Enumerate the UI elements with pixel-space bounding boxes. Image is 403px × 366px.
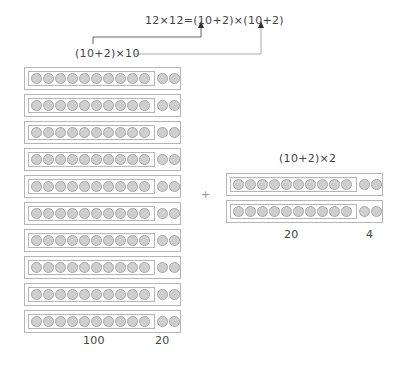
dot: [79, 73, 90, 84]
dot-row: [226, 200, 383, 223]
dot: [79, 127, 90, 138]
right-sum-ones: 4: [366, 228, 373, 241]
dot: [55, 154, 66, 165]
dot: [115, 181, 126, 192]
dot: [329, 206, 340, 217]
dot: [31, 316, 42, 327]
ten-group: [28, 206, 155, 221]
ten-group: [28, 314, 155, 329]
dot: [43, 73, 54, 84]
ones-group: [157, 149, 180, 170]
dot: [127, 100, 138, 111]
dot: [91, 316, 102, 327]
ten-group: [230, 204, 357, 219]
dot: [127, 181, 138, 192]
dot: [233, 179, 244, 190]
dot: [79, 181, 90, 192]
dot: [157, 316, 168, 327]
ones-group: [157, 122, 180, 143]
dot: [103, 181, 114, 192]
dot: [79, 262, 90, 273]
dot: [67, 262, 78, 273]
dot-row: [226, 173, 383, 196]
dot: [139, 73, 150, 84]
dot-row: [24, 283, 181, 306]
dot: [43, 100, 54, 111]
dot: [169, 289, 180, 300]
dot: [139, 235, 150, 246]
dot: [67, 127, 78, 138]
dot-row: [24, 67, 181, 90]
dot: [43, 316, 54, 327]
dot: [91, 208, 102, 219]
dot: [127, 235, 138, 246]
dot-row: [24, 256, 181, 279]
dot: [245, 206, 256, 217]
dot: [257, 179, 268, 190]
left-group-label: (10+2)×10: [75, 47, 140, 60]
dot: [169, 154, 180, 165]
dot: [169, 316, 180, 327]
dot: [115, 289, 126, 300]
right-group-label: (10+2)×2: [279, 152, 336, 165]
ones-group: [157, 176, 180, 197]
dot: [157, 208, 168, 219]
dot: [67, 316, 78, 327]
ten-group: [28, 71, 155, 86]
dot: [169, 262, 180, 273]
dot: [55, 316, 66, 327]
dot: [91, 127, 102, 138]
dot: [169, 127, 180, 138]
ones-group: [157, 230, 180, 251]
dot: [139, 208, 150, 219]
dot: [67, 73, 78, 84]
dot: [79, 154, 90, 165]
dot: [91, 262, 102, 273]
ones-group: [359, 201, 382, 222]
ones-group: [157, 95, 180, 116]
dot: [91, 289, 102, 300]
dot: [169, 181, 180, 192]
dot: [329, 179, 340, 190]
dot: [79, 316, 90, 327]
dot: [43, 262, 54, 273]
dot: [157, 181, 168, 192]
dot: [67, 235, 78, 246]
dot: [115, 154, 126, 165]
ten-group: [28, 152, 155, 167]
ones-group: [359, 174, 382, 195]
dot: [127, 73, 138, 84]
dot: [55, 262, 66, 273]
dot: [103, 154, 114, 165]
dot-row: [24, 94, 181, 117]
ones-group: [157, 68, 180, 89]
dot: [55, 235, 66, 246]
dot: [127, 289, 138, 300]
dot: [139, 316, 150, 327]
ones-group: [157, 311, 180, 332]
dot: [115, 235, 126, 246]
dot: [31, 208, 42, 219]
ten-group: [28, 287, 155, 302]
dot-row: [24, 121, 181, 144]
dot-row: [24, 148, 181, 171]
dot: [157, 127, 168, 138]
dot: [317, 179, 328, 190]
dot: [55, 127, 66, 138]
dot: [31, 181, 42, 192]
dot: [79, 208, 90, 219]
ten-group: [28, 125, 155, 140]
dot: [115, 100, 126, 111]
ten-group: [28, 260, 155, 275]
dot: [293, 206, 304, 217]
dot: [55, 208, 66, 219]
plus-sign: +: [201, 188, 211, 201]
dot: [281, 179, 292, 190]
dot: [359, 179, 370, 190]
dot: [55, 181, 66, 192]
dot: [269, 179, 280, 190]
dot: [127, 316, 138, 327]
dot: [103, 127, 114, 138]
dot: [31, 127, 42, 138]
dot: [305, 206, 316, 217]
